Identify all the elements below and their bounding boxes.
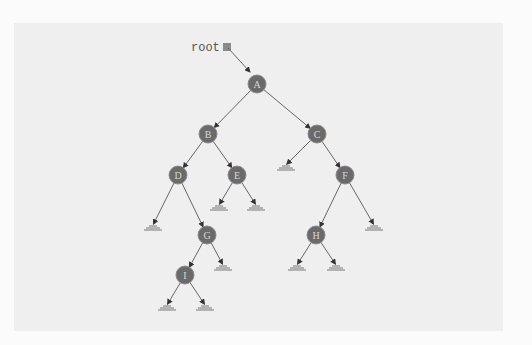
null-pointer-icon [144, 226, 162, 230]
edge-C-null_C_left [287, 140, 311, 164]
node-label: F [342, 170, 348, 181]
edge-D-null_D_left [153, 183, 174, 224]
node-label: B [205, 129, 212, 140]
tree-node-G: G [198, 226, 216, 244]
tree-node-I: I [176, 266, 194, 284]
figure-stage: root ABCDEFGHI [0, 0, 532, 345]
node-label: I [183, 270, 186, 281]
tree-node-D: D [169, 166, 187, 184]
edge-E-null_E_right [242, 183, 256, 205]
tree-node-F: F [336, 166, 354, 184]
tree-node-C: C [308, 125, 326, 143]
edge-B-D [183, 141, 202, 167]
node-label: G [203, 230, 210, 241]
edge-B-E [213, 141, 232, 167]
null-pointer-icon [327, 266, 345, 270]
edge-C-F [322, 141, 340, 167]
null-pointer-icon [210, 206, 228, 210]
node-label: C [314, 129, 321, 140]
null-pointer-icon [196, 306, 214, 310]
tree-node-E: E [228, 166, 246, 184]
null-pointer-icon [158, 306, 176, 310]
edge-G-null_G_right [211, 243, 222, 264]
edge-G-I [189, 243, 202, 267]
null-pointer-icon [214, 266, 232, 270]
root-pointer: root [191, 41, 250, 72]
edge-D-G [182, 183, 203, 227]
tree-node-B: B [199, 125, 217, 143]
edge-E-null_E_left [220, 183, 233, 204]
node-label: E [234, 170, 240, 181]
root-arrow [228, 48, 250, 72]
null-pointer-icon [288, 266, 306, 270]
edge-F-H [320, 183, 341, 227]
edge-I-null_I_left [168, 283, 181, 304]
edge-A-C [264, 90, 310, 128]
binary-tree-diagram: root ABCDEFGHI [0, 0, 532, 345]
node-label: A [253, 79, 261, 90]
edge-A-B [214, 90, 250, 127]
node-label: D [174, 170, 181, 181]
null-pointer-icon [277, 166, 295, 170]
edge-I-null_I_right [190, 282, 204, 304]
null-pointers-layer [144, 166, 383, 310]
null-pointer-icon [365, 226, 383, 230]
node-label: H [312, 230, 319, 241]
null-pointer-icon [247, 206, 265, 210]
tree-node-H: H [307, 226, 325, 244]
edge-H-null_H_right [321, 242, 335, 264]
tree-node-A: A [248, 75, 266, 93]
edge-H-null_H_left [298, 243, 312, 265]
edge-F-null_F_right [350, 183, 374, 224]
root-label: root [191, 41, 220, 55]
